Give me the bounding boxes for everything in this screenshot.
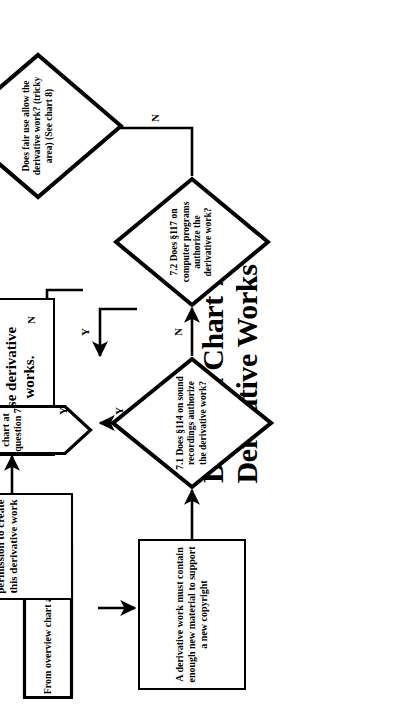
edge-label-q71-no: N [173,328,184,336]
edge-label-q72-no: N [150,114,161,122]
decision-fair-use-label: Does fair use allow the derivative work?… [0,52,124,200]
edge-label-q72-yes: Y [80,328,91,336]
decision-7-2-label: 7.2 Does §117 on computer programs autho… [113,176,271,308]
outcome-permission-needed: You need permission to create this deriv… [0,493,73,600]
edge-label-fairuse-no: N [26,316,37,324]
decision-fair-use: Does fair use allow the derivative work?… [0,52,124,200]
outcome-permission-needed-text: You need permission to create this deriv… [0,499,21,594]
edge-label-fairuse-yes: Y [58,407,69,415]
edge-label-q71-yes: Y [114,407,125,415]
decision-7-1: 7.1 Does §114 on sound recordings author… [110,356,274,490]
decision-7-1-label: 7.1 Does §114 on sound recordings author… [110,356,274,490]
flowchart-canvas: Decision Chart 7: Derivative Works From … [0,0,414,728]
connector-tag-return-label: Return to overview chart at question 7 [0,404,93,456]
decision-7-2: 7.2 Does §117 on computer programs autho… [113,176,271,308]
note-box-derivative-work: A derivative work must contain enough ne… [138,539,246,690]
connector-tag-return: Return to overview chart at question 7 [0,404,93,456]
note-box-text: A derivative work must contain enough ne… [174,545,211,684]
